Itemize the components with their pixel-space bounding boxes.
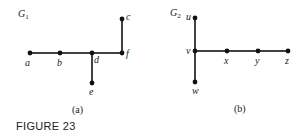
node-label-c: c [126, 11, 131, 22]
node-v [193, 49, 198, 54]
node-f [120, 51, 125, 56]
node-w [193, 80, 198, 85]
graph-g1-title: G1 [18, 8, 29, 21]
node-c [120, 17, 125, 22]
node-label-e: e [89, 86, 94, 97]
node-e [90, 81, 95, 86]
node-u [193, 16, 198, 21]
node-label-d: d [94, 54, 100, 65]
node-y [256, 49, 261, 54]
node-a [28, 51, 33, 56]
node-label-u: u [186, 11, 191, 22]
figure-label: FIGURE 23 [16, 120, 76, 132]
graph-g1: abdfce [25, 11, 131, 97]
caption-a: (a) [72, 104, 83, 116]
figure-canvas: abdfce uvwxyz G1 G2 (a) (b) [0, 0, 304, 139]
node-z [286, 49, 291, 54]
graph-g2-title: G2 [170, 7, 181, 20]
node-x [225, 49, 230, 54]
node-label-v: v [186, 45, 191, 56]
node-label-y: y [254, 55, 260, 66]
graph-g2: uvwxyz [186, 11, 290, 96]
node-label-b: b [57, 57, 62, 68]
node-b [58, 51, 63, 56]
node-label-w: w [192, 85, 199, 96]
node-label-f: f [126, 48, 130, 59]
node-label-z: z [284, 55, 289, 66]
node-label-a: a [25, 57, 30, 68]
node-label-x: x [223, 55, 229, 66]
caption-b: (b) [234, 103, 246, 115]
